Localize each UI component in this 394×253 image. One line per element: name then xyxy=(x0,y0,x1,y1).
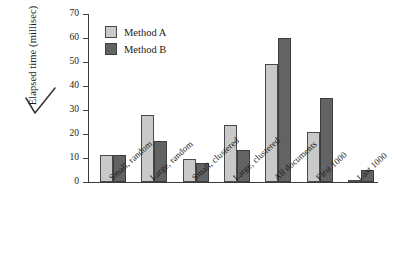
legend-label: Method B xyxy=(124,44,166,55)
y-tick-label: 10 xyxy=(70,152,80,162)
y-tick: 40 xyxy=(83,86,88,87)
y-tick: 0 xyxy=(83,182,88,183)
legend: Method AMethod B xyxy=(105,26,166,60)
y-tick: 10 xyxy=(83,158,88,159)
y-tick-label: 40 xyxy=(70,80,80,90)
y-axis-line xyxy=(88,14,89,182)
y-tick: 20 xyxy=(83,134,88,135)
legend-item: Method B xyxy=(105,43,166,55)
legend-swatch-icon xyxy=(105,26,117,38)
y-tick-label: 0 xyxy=(74,176,79,186)
legend-item: Method A xyxy=(105,26,166,38)
bar-series-a xyxy=(265,64,278,182)
y-tick-label: 60 xyxy=(70,32,80,42)
legend-label: Method A xyxy=(124,27,166,38)
y-tick: 30 xyxy=(83,110,88,111)
y-tick: 60 xyxy=(83,38,88,39)
y-tick-label: 30 xyxy=(70,104,80,114)
y-tick-label: 20 xyxy=(70,128,80,138)
y-tick-label: 50 xyxy=(70,56,80,66)
y-axis-title: Elapsed time (millisec) xyxy=(27,0,38,136)
y-tick: 50 xyxy=(83,62,88,63)
y-tick-label: 70 xyxy=(70,8,80,18)
y-tick: 70 xyxy=(83,14,88,15)
chart-figure: Elapsed time (millisec) 706050403020100 … xyxy=(0,0,394,253)
x-axis-line xyxy=(88,182,378,183)
legend-swatch-icon xyxy=(105,43,117,55)
